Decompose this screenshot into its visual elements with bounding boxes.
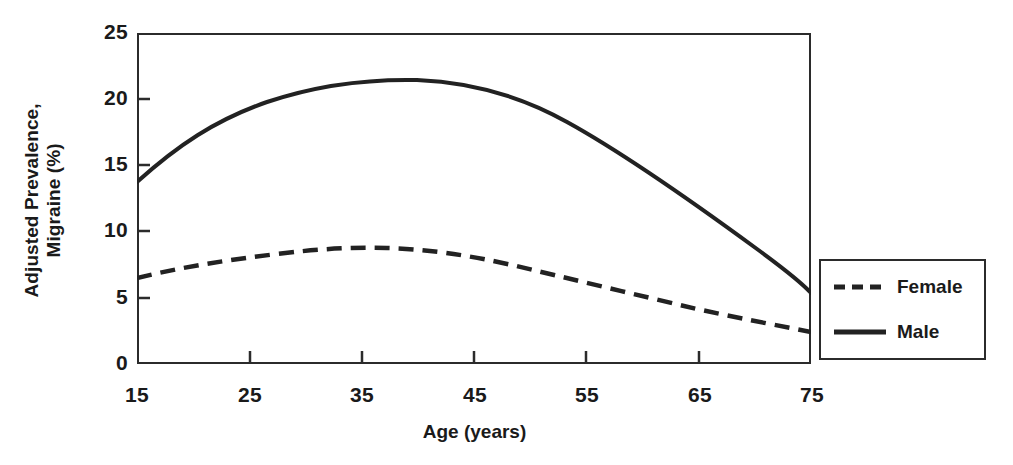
legend-label-female: Female	[897, 276, 962, 298]
x-axis-ticks	[250, 351, 699, 364]
x-tick-label-35: 35	[332, 383, 392, 407]
y-tick-label-10: 10	[82, 218, 128, 242]
legend-label-male: Male	[897, 321, 939, 343]
y-tick-label-5: 5	[82, 285, 128, 309]
x-tick-label-75: 75	[782, 383, 842, 407]
legend-item-female: Female	[821, 267, 984, 307]
legend-swatch-dashed-icon	[833, 280, 887, 294]
y-tick-label-25: 25	[82, 20, 128, 44]
legend-swatch-solid-icon	[833, 325, 887, 339]
y-tick-label-15: 15	[82, 152, 128, 176]
x-tick-label-65: 65	[670, 383, 730, 407]
chart-figure: Adjusted Prevalence, Migraine (%) 25 20 …	[0, 0, 1013, 465]
y-axis-ticks	[137, 99, 150, 298]
y-tick-label-0: 0	[82, 351, 128, 375]
x-tick-label-45: 45	[445, 383, 505, 407]
x-axis-title: Age (years)	[137, 421, 812, 443]
y-axis-title: Adjusted Prevalence, Migraine (%)	[0, 0, 86, 400]
legend-item-male: Male	[821, 312, 984, 352]
chart-legend: Female Male	[819, 259, 986, 360]
y-tick-label-20: 20	[82, 86, 128, 110]
x-tick-label-25: 25	[220, 383, 280, 407]
x-tick-label-15: 15	[107, 383, 167, 407]
y-axis-title-line-2: Migraine (%)	[43, 103, 65, 297]
y-axis-title-line-1: Adjusted Prevalence,	[21, 103, 43, 297]
x-tick-label-55: 55	[557, 383, 617, 407]
plot-canvas	[137, 33, 811, 364]
series-line-female	[137, 248, 811, 332]
